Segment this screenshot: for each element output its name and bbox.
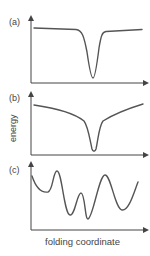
panel-b-curve: [34, 104, 143, 151]
panel-c-label: (c): [9, 165, 20, 175]
panel-a-curve: [34, 28, 142, 78]
panel-a: (a): [9, 17, 146, 83]
panel-a-label: (a): [9, 17, 20, 27]
panel-c: (c) folding coordinate: [9, 164, 146, 247]
y-axis-label: energy: [8, 114, 18, 142]
panel-b: (b) energy: [8, 93, 146, 155]
energy-landscape-diagram: (a) (b) energy (c) folding coordinate: [0, 0, 150, 256]
panel-b-label: (b): [9, 93, 20, 103]
x-axis-label: folding coordinate: [45, 236, 120, 247]
panel-c-curve: [32, 171, 138, 219]
